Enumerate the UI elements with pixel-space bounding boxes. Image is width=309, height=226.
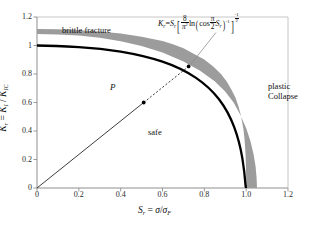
equation-sr-subscript: r xyxy=(174,23,176,29)
x-tick-label-5: 1.0 xyxy=(241,191,251,199)
assessment-point-p-marker xyxy=(142,101,146,105)
x-tick-label-4: 0.8 xyxy=(199,191,209,199)
x-tick-label-1: 0.2 xyxy=(74,191,84,199)
y-tick-label-3: 0.6 xyxy=(22,99,32,107)
fraction-numerator: 8 xyxy=(181,15,189,23)
equation-paren-exponent: -1 xyxy=(226,19,230,24)
y-axis-ticks xyxy=(34,17,38,188)
paren-open-icon: ( xyxy=(196,19,198,31)
load-path-solid xyxy=(37,103,144,189)
bracket-close-icon: ] xyxy=(231,19,234,34)
plastic-collapse-line-1: plastic xyxy=(268,81,290,91)
y-axis-title: Kr = KI / KIC xyxy=(0,84,9,131)
y-tick-label-6: 1.2 xyxy=(22,13,32,21)
region-label-safe: safe xyxy=(148,128,162,138)
x-tick-label-3: 0.6 xyxy=(158,191,168,199)
region-label-plastic-collapse: plastic Collapse xyxy=(268,82,298,102)
bracket-open-icon: [ xyxy=(177,19,180,34)
equation-ln: ln xyxy=(189,19,195,28)
load-path-dashed xyxy=(144,66,189,102)
equation-cos: cos xyxy=(199,19,210,28)
x-tick-label-0: 0 xyxy=(35,191,39,199)
y-tick-label-1: 0.2 xyxy=(22,156,32,164)
x-axis-title: Sr = σ/σF xyxy=(138,206,171,216)
point-label-p: P xyxy=(110,82,116,92)
x-tick-label-2: 0.4 xyxy=(116,191,126,199)
x-tick-label-6: 1.2 xyxy=(283,191,293,199)
plastic-collapse-line-2: Collapse xyxy=(268,91,298,101)
equation-fraction-8-over-pi-squared: 8π2 xyxy=(181,15,189,31)
paren-close-icon: ) xyxy=(222,19,224,31)
fraction-denominator: π2 xyxy=(181,22,189,31)
fad-plot-canvas xyxy=(0,0,309,226)
y-tick-label-4: 0.8 xyxy=(22,70,32,78)
fad-equation-annotation: Kr=Sr[8π2ln(cosπ2Sr)-1]-12 xyxy=(158,13,239,34)
y-tick-label-5: 1 xyxy=(28,42,32,50)
region-label-brittle-fracture: brittle fracture xyxy=(62,26,111,36)
equation-inner-s-subscript: r xyxy=(220,23,222,29)
equation-outer-exponent: -12 xyxy=(235,13,239,24)
y-tick-label-0: 0 xyxy=(28,184,32,192)
fad-curve xyxy=(37,46,246,189)
failure-assessment-diagram: 0 0.2 0.4 0.6 0.8 1.0 1.2 0 0.2 0.4 0.6 … xyxy=(0,0,309,226)
outer-exponent-denominator: 2 xyxy=(235,18,239,24)
curve-intersection-marker xyxy=(187,65,191,69)
y-tick-label-2: 0.4 xyxy=(22,127,32,135)
